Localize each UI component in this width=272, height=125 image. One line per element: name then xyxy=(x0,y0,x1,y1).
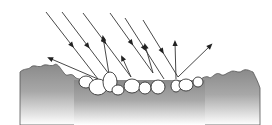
pebble xyxy=(179,79,193,91)
diagram-canvas xyxy=(0,0,272,125)
arrowhead-icon xyxy=(172,40,177,46)
incident-rays xyxy=(46,12,178,79)
pebble xyxy=(193,77,203,87)
reflected-ray xyxy=(103,37,109,74)
pebble xyxy=(112,85,124,95)
incident-ray xyxy=(62,12,109,74)
arrowhead-icon xyxy=(119,54,126,62)
arrowhead-icon xyxy=(84,42,92,50)
incident-ray xyxy=(83,13,131,77)
arrowhead-icon xyxy=(128,39,136,47)
diffuse-reflection-diagram: diffuse reflection of light rays off a r… xyxy=(0,0,272,125)
arrowhead-icon xyxy=(46,55,54,62)
reflected-ray xyxy=(145,45,153,73)
reflected-ray xyxy=(175,42,176,79)
arrowhead-icon xyxy=(100,35,106,42)
reflected-ray xyxy=(178,45,211,77)
pebble xyxy=(151,80,165,94)
incident-ray xyxy=(143,20,178,77)
pebble xyxy=(139,82,151,94)
pebble xyxy=(124,79,140,93)
arrowhead-icon xyxy=(159,47,166,55)
ground-surface xyxy=(20,64,260,125)
